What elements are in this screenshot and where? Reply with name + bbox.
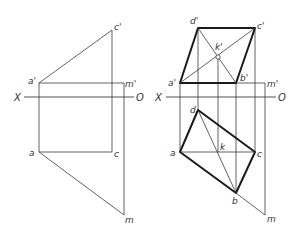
label-c: c: [257, 149, 262, 159]
point-k-prime-marker: [216, 55, 220, 59]
label-b-prime: b': [240, 73, 248, 83]
label-m: m: [267, 214, 276, 224]
label-a-prime: a': [168, 78, 176, 88]
label-c-prime: c': [257, 21, 264, 31]
label-a: a: [170, 148, 176, 158]
label-b: b: [232, 196, 238, 206]
label-a-prime: a': [28, 76, 36, 86]
label-m-prime: m': [267, 79, 278, 89]
right-axis-label-x: X: [154, 92, 163, 103]
label-c: c: [114, 149, 119, 159]
right-view: X O d' c' k' a' b' m' d a k c b m: [154, 16, 286, 224]
label-d-prime: d': [190, 16, 198, 26]
left-axis-label-x: X: [13, 92, 22, 103]
label-k: k: [220, 142, 226, 152]
label-d: d: [190, 105, 196, 115]
descriptive-geometry-figure: X O a' c' m' a c m X O: [0, 0, 294, 235]
left-axis-label-o: O: [136, 92, 144, 103]
label-m-prime: m': [125, 79, 136, 89]
left-view: X O a' c' m' a c m: [13, 22, 144, 225]
diagonal-d-b: [198, 110, 236, 193]
right-axis-label-o: O: [278, 92, 286, 103]
line-a-prime-c-prime: [39, 30, 112, 83]
line-b-m: [236, 193, 265, 215]
parallelogram-top-view: [180, 110, 255, 193]
line-a-m: [39, 152, 124, 215]
label-m: m: [125, 215, 134, 225]
drawing-svg: X O a' c' m' a c m X O: [0, 0, 294, 235]
label-a: a: [29, 148, 35, 158]
label-k-prime: k': [215, 42, 223, 52]
label-c-prime: c': [114, 22, 121, 32]
